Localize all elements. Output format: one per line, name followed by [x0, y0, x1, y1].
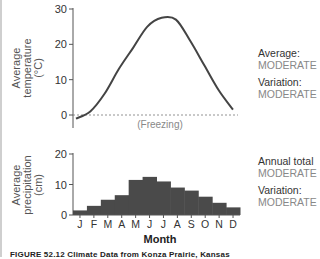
- svg-text:F: F: [91, 218, 97, 230]
- svg-text:Month: Month: [144, 233, 177, 245]
- svg-text:M: M: [103, 218, 112, 230]
- svg-text:(°C): (°C): [32, 58, 44, 78]
- svg-text:A: A: [174, 218, 181, 230]
- svg-text:N: N: [215, 218, 223, 230]
- variation-label: Variation:: [258, 76, 317, 88]
- annual-total-value: MODERATE: [258, 167, 317, 179]
- variation-value: MODERATE: [258, 196, 317, 208]
- svg-text:20: 20: [55, 148, 67, 160]
- annual-total-label: Annual total: [258, 155, 317, 167]
- svg-text:J: J: [77, 218, 82, 230]
- svg-text:S: S: [188, 218, 195, 230]
- precipitation-summary: Annual total MODERATE Variation: MODERAT…: [258, 155, 317, 208]
- svg-text:J: J: [161, 218, 166, 230]
- svg-text:0: 0: [61, 109, 67, 121]
- svg-text:10: 10: [55, 74, 67, 86]
- svg-text:D: D: [229, 218, 237, 230]
- svg-text:(cm): (cm): [32, 174, 44, 196]
- svg-text:20: 20: [55, 38, 67, 50]
- svg-text:J: J: [147, 218, 152, 230]
- svg-text:M: M: [131, 218, 140, 230]
- svg-text:0: 0: [61, 209, 67, 221]
- svg-text:(Freezing): (Freezing): [137, 119, 183, 130]
- temperature-summary: Average: MODERATE Variation: MODERATE: [258, 47, 317, 100]
- svg-text:A: A: [118, 218, 125, 230]
- figure-caption: FIGURE 52.12 Climate Data from Konza Pra…: [10, 250, 230, 259]
- variation-value: MODERATE: [258, 88, 317, 100]
- average-label: Average:: [258, 47, 317, 59]
- svg-text:10: 10: [55, 179, 67, 191]
- variation-label: Variation:: [258, 184, 317, 196]
- svg-text:30: 30: [55, 3, 67, 15]
- average-value: MODERATE: [258, 59, 317, 71]
- svg-text:O: O: [201, 218, 209, 230]
